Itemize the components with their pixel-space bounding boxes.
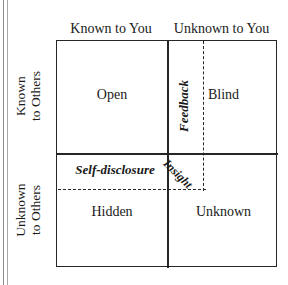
process-self-disclosure-label: Self-disclosure [63,162,167,178]
row-header-unknown-to-others-line2: to Others [28,183,43,236]
process-feedback-label: Feedback [176,80,192,132]
row-header-known-to-others: Known to Others [0,40,56,152]
matrix-horizontal-divider [57,153,278,155]
row-header-unknown-to-others: Unknown to Others [0,152,56,267]
row-header-unknown-to-others-line1: Unknown [13,183,28,236]
johari-window-matrix: Open Blind Hidden Unknown Feedback Self-… [56,40,277,267]
quadrant-open-label: Open [57,87,167,103]
quadrant-unknown-label: Unknown [169,204,278,220]
process-insight-label: Insight [156,155,205,204]
process-feedback: Feedback [169,61,199,151]
column-header-known-to-you: Known to You [56,20,166,38]
row-header-known-to-others-line2: to Others [28,71,43,121]
feedback-dashed-line [203,41,204,191]
row-header-known-to-others-text: Known to Others [13,71,43,121]
quadrant-hidden-label: Hidden [57,204,167,220]
row-header-unknown-to-others-text: Unknown to Others [13,183,43,236]
row-header-known-to-others-line1: Known [13,71,28,121]
column-header-unknown-to-you: Unknown to You [166,20,277,38]
